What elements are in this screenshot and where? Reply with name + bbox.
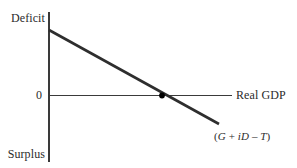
curve-close-paren: ) [267,130,271,142]
curve-equation-label: (G + iD – T) [214,131,270,142]
curve-variable-d: D [241,130,249,142]
curve-variable-g: G [218,130,226,142]
x-axis-label: Real GDP [236,89,286,101]
chart-plot-area [0,0,297,168]
y-axis-bottom-label: Surplus [0,148,45,160]
balanced-budget-point [159,93,165,99]
curve-plus-operator: + [226,130,238,142]
deficit-surplus-chart: Deficit Surplus 0 Real GDP (G + iD – T) [0,0,297,168]
origin-label: 0 [0,89,42,101]
budget-balance-line [49,30,219,124]
y-axis-top-label: Deficit [0,12,45,24]
curve-minus-operator: – [249,130,260,142]
